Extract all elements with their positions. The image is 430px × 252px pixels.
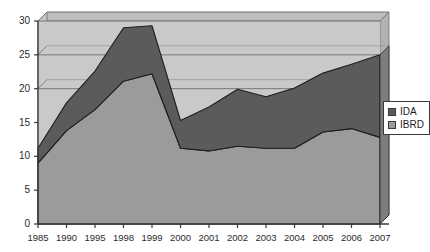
y-tick-label-0: 0 [8,219,30,229]
legend-swatch-icon [388,108,396,116]
y-tick-label-30: 30 [8,16,30,26]
legend-swatch-fill [389,122,395,128]
legend-item-ida[interactable]: IDA [388,105,424,118]
y-tick-label-10: 10 [8,151,30,161]
chart-legend: IDAIBRD [383,101,430,135]
legend-swatch-fill [389,109,395,115]
y-tick-label-20: 20 [8,84,30,94]
legend-item-ibrd[interactable]: IBRD [388,118,424,131]
legend-label: IBRD [400,119,424,130]
legend-swatch-icon [388,121,396,129]
legend-label: IDA [400,106,417,117]
x-tick-label-2007: 2007 [363,233,397,243]
y-tick-label-25: 25 [8,50,30,60]
y-tick-label-15: 15 [8,118,30,128]
y-tick-label-5: 5 [8,185,30,195]
